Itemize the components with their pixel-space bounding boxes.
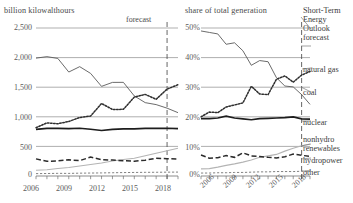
leader-hydropower xyxy=(301,158,311,159)
left-series-nuclear xyxy=(36,128,178,130)
right-series-natural-gas xyxy=(201,72,310,117)
right-series-other xyxy=(201,171,310,173)
energy-generation-chart-figure: billion kilowalthours forecast 2,500 2,0… xyxy=(0,0,353,203)
left-series-hydropower xyxy=(36,157,178,161)
leader-forecast xyxy=(301,17,311,29)
left-series-coal xyxy=(36,57,178,113)
right-series-coal xyxy=(201,31,310,104)
plot-canvas xyxy=(0,0,353,203)
leader-natural-gas xyxy=(302,68,311,69)
leader-nonhydro-renewables xyxy=(301,144,311,146)
left-series-natural-gas xyxy=(36,85,178,128)
leader-coal xyxy=(301,87,311,92)
right-series-hydropower xyxy=(201,153,310,158)
left-series-other xyxy=(36,172,178,174)
